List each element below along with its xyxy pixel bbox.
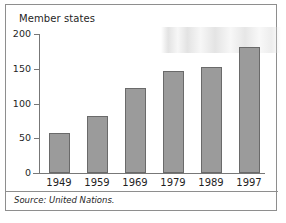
bar: [87, 116, 108, 173]
y-axis-tick-label: 200: [13, 28, 31, 39]
y-axis-tick-mark: [34, 138, 40, 139]
bar: [125, 88, 146, 173]
bar: [49, 133, 70, 173]
chart-figure: Member states 050100150200 1949195919691…: [5, 4, 277, 211]
y-axis-tick: 0: [34, 173, 40, 174]
bar: [239, 47, 260, 173]
y-axis-tick-mark: [34, 69, 40, 70]
y-axis-tick-label: 100: [13, 98, 31, 109]
x-axis-tick-label: 1997: [226, 177, 272, 188]
bar: [163, 71, 184, 173]
y-axis-tick-mark: [34, 34, 40, 35]
y-axis-tick-mark: [34, 104, 40, 105]
y-axis-tick: 150: [34, 69, 40, 70]
y-axis-tick-mark: [34, 173, 40, 174]
y-axis-tick-label: 150: [13, 63, 31, 74]
x-axis-line: [33, 173, 265, 174]
plot-area: 050100150200 194919591969197919891997: [6, 5, 278, 212]
source-note: Source: United Nations.: [14, 195, 115, 205]
bar: [201, 67, 222, 173]
y-axis-tick: 100: [34, 104, 40, 105]
y-axis-tick: 200: [34, 34, 40, 35]
source-divider: [6, 191, 278, 192]
y-axis-tick: 50: [34, 138, 40, 139]
y-axis-tick-label: 50: [19, 132, 31, 143]
y-axis-tick-label: 0: [25, 167, 31, 178]
